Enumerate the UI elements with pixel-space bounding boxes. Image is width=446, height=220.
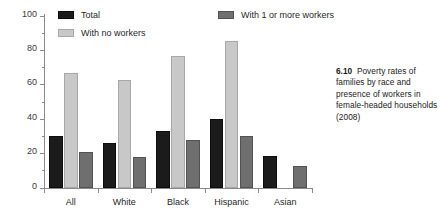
bar-black-with-no-workers — [171, 56, 185, 188]
bar-all-total — [49, 136, 63, 188]
bar-white-with-no-workers — [118, 80, 132, 188]
x-tick-mark — [258, 188, 259, 193]
x-axis-line — [43, 188, 313, 189]
x-tick-mark — [312, 188, 313, 193]
bar-hispanic-total — [210, 119, 224, 188]
bar-all-with-1-or-more-workers — [79, 152, 93, 188]
figure-caption-number: 6.10 — [336, 66, 352, 76]
x-category-label-all: All — [66, 197, 76, 207]
bar-hispanic-with-no-workers — [225, 41, 239, 188]
x-category-label-black: Black — [167, 197, 189, 207]
y-tick-label: 20 — [27, 147, 37, 156]
x-tick-mark — [44, 188, 45, 193]
bar-white-total — [103, 143, 117, 188]
x-tick-mark — [205, 188, 206, 193]
legend-item-no-workers: With no workers — [58, 28, 146, 38]
legend-item-with-workers: With 1 or more workers — [218, 10, 334, 20]
y-tick-label: 60 — [27, 78, 37, 87]
legend-label-total: Total — [81, 10, 100, 20]
bar-black-with-1-or-more-workers — [186, 140, 200, 188]
legend-swatch-total-icon — [58, 11, 74, 19]
y-tick-label: 40 — [27, 113, 37, 122]
figure-caption: 6.10 Poverty rates of families by race a… — [336, 66, 440, 123]
chart-legend: Total With no workers With 1 or more wor… — [58, 10, 318, 44]
x-tick-mark — [98, 188, 99, 193]
bar-asian-total — [263, 156, 277, 188]
x-category-label-hispanic: Hispanic — [214, 197, 249, 207]
bar-hispanic-with-1-or-more-workers — [240, 136, 254, 188]
bar-black-total — [156, 131, 170, 188]
bar-white-with-1-or-more-workers — [133, 157, 147, 188]
x-tick-mark — [151, 188, 152, 193]
legend-label-no-workers: With no workers — [81, 28, 146, 38]
x-category-label-white: White — [113, 197, 136, 207]
bar-all-with-no-workers — [64, 73, 78, 188]
legend-swatch-with-workers-icon — [218, 11, 234, 19]
x-category-label-asian: Asian — [274, 197, 297, 207]
legend-swatch-no-workers-icon — [58, 29, 74, 37]
legend-label-with-workers: With 1 or more workers — [241, 10, 334, 20]
figure-poverty-rates: Percentage 020406080100 AllWhiteBlackHis… — [0, 0, 446, 220]
y-tick-label: 0 — [32, 182, 37, 191]
y-tick-label: 100 — [22, 10, 37, 19]
legend-item-total: Total — [58, 10, 100, 20]
bar-asian-with-1-or-more-workers — [293, 166, 307, 188]
y-tick-label: 80 — [27, 44, 37, 53]
